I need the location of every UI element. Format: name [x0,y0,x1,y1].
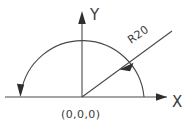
radius-dimension-label: R20 [125,23,151,47]
x-axis-label: X [172,93,182,111]
x-axis-arrowhead-icon [156,93,167,101]
radius-leader-line [82,31,172,97]
y-axis-arrowhead-icon [78,11,86,24]
arc-sketch-drawing: Y X (0,0,0) R20 [0,0,192,124]
origin-coordinate-label: (0,0,0) [61,108,100,121]
y-axis-label: Y [89,6,100,24]
diagram-canvas: Y X (0,0,0) R20 [0,0,192,124]
arc-direction-arrowhead-icon [17,84,24,97]
